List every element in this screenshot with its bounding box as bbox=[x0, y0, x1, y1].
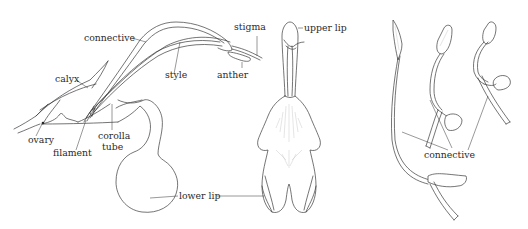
stamen-3-drawing bbox=[473, 22, 510, 124]
calyx-drawing bbox=[36, 61, 108, 122]
label-upper-lip: upper lip bbox=[304, 22, 347, 33]
anther-drawing bbox=[228, 52, 250, 61]
flower-side-section bbox=[14, 22, 262, 212]
throat-hairs bbox=[276, 104, 302, 168]
leader-lines bbox=[36, 28, 488, 198]
corolla-lower-lip-drawing bbox=[116, 100, 178, 213]
label-stigma: stigma bbox=[234, 21, 266, 32]
upper-lip-drawing bbox=[282, 22, 304, 96]
ovary-drawing bbox=[42, 113, 78, 124]
label-ovary: ovary bbox=[28, 134, 55, 145]
flower-front-view bbox=[258, 22, 321, 213]
label-corolla-tube-line1: corolla bbox=[98, 130, 131, 141]
label-style: style bbox=[165, 69, 188, 80]
stamen-lever-sequence bbox=[391, 20, 510, 220]
salvia-flower-diagram: connective calyx style stigma anther ova… bbox=[0, 0, 528, 229]
stamen-2-drawing bbox=[426, 25, 462, 148]
label-calyx: calyx bbox=[55, 73, 80, 84]
label-lower-lip: lower lip bbox=[179, 190, 220, 201]
label-filament: filament bbox=[53, 147, 92, 158]
label-connective: connective bbox=[84, 32, 135, 43]
label-corolla-tube-line2: tube bbox=[102, 141, 124, 152]
label-anther: anther bbox=[217, 69, 249, 80]
label-connective-stamens: connective bbox=[424, 149, 475, 160]
